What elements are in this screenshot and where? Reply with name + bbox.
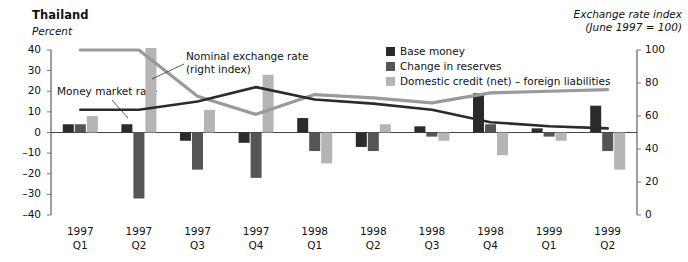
bar-base-money-1998-Q2 bbox=[356, 133, 367, 147]
line-nominal-exchange-rate-right-index bbox=[80, 50, 607, 114]
bar-change-in-reserves-1997-Q3 bbox=[192, 133, 203, 170]
x-axis-tick-label: 1997Q4 bbox=[228, 224, 284, 252]
x-tick-quarter: Q4 bbox=[483, 239, 498, 251]
bar-change-in-reserves-1997-Q1 bbox=[75, 124, 86, 132]
x-axis-tick-label: 1997Q2 bbox=[111, 224, 167, 252]
x-axis-tick-label: 1998Q2 bbox=[345, 224, 401, 252]
bar-domestic-credit-net-foreign-liabilities-1999-Q1 bbox=[556, 133, 567, 141]
left-axis-tick-label: 0 bbox=[11, 126, 41, 138]
x-tick-quarter: Q1 bbox=[542, 239, 557, 251]
left-axis-tick-label: –30 bbox=[11, 187, 41, 199]
x-tick-year: 1997 bbox=[243, 225, 270, 237]
bar-base-money-1997-Q2 bbox=[121, 124, 132, 132]
bar-domestic-credit-net-foreign-liabilities-1999-Q2 bbox=[614, 133, 625, 170]
bar-base-money-1997-Q4 bbox=[239, 133, 250, 143]
x-tick-year: 1998 bbox=[419, 225, 446, 237]
x-axis-tick-label: 1998Q1 bbox=[287, 224, 343, 252]
x-tick-year: 1997 bbox=[184, 225, 211, 237]
x-axis-tick-label: 1997Q3 bbox=[170, 224, 226, 252]
x-axis-tick-label: 1997Q1 bbox=[52, 224, 108, 252]
right-axis-tick-label: 40 bbox=[645, 142, 675, 154]
x-tick-quarter: Q1 bbox=[73, 239, 88, 251]
bar-change-in-reserves-1997-Q4 bbox=[251, 133, 262, 178]
right-axis-tick-label: 100 bbox=[645, 43, 675, 55]
bar-base-money-1998-Q1 bbox=[297, 118, 308, 132]
x-tick-year: 1998 bbox=[360, 225, 387, 237]
x-tick-quarter: Q2 bbox=[600, 239, 615, 251]
bar-base-money-1999-Q1 bbox=[532, 128, 543, 132]
x-tick-year: 1997 bbox=[126, 225, 153, 237]
chart-figure: Thailand Percent Exchange rate index (Ju… bbox=[0, 0, 688, 262]
x-tick-quarter: Q1 bbox=[307, 239, 322, 251]
bar-domestic-credit-net-foreign-liabilities-1998-Q1 bbox=[321, 133, 332, 164]
leader-line-nominal-exchange-rate bbox=[152, 64, 184, 79]
left-axis-tick-label: –10 bbox=[11, 146, 41, 158]
bar-change-in-reserves-1998-Q2 bbox=[368, 133, 379, 152]
bar-domestic-credit-net-foreign-liabilities-1997-Q3 bbox=[204, 110, 215, 133]
x-tick-quarter: Q3 bbox=[190, 239, 205, 251]
left-axis-tick-label: 40 bbox=[11, 43, 41, 55]
x-axis-tick-label: 1999Q2 bbox=[580, 224, 636, 252]
left-axis-tick-label: –20 bbox=[11, 167, 41, 179]
bar-domestic-credit-net-foreign-liabilities-1998-Q3 bbox=[438, 133, 449, 141]
bar-base-money-1998-Q4 bbox=[473, 93, 484, 132]
bar-change-in-reserves-1999-Q2 bbox=[602, 133, 613, 152]
x-axis-tick-label: 1999Q1 bbox=[521, 224, 577, 252]
x-tick-year: 1998 bbox=[477, 225, 504, 237]
x-tick-year: 1997 bbox=[67, 225, 94, 237]
x-tick-year: 1999 bbox=[594, 225, 621, 237]
right-axis-tick-label: 60 bbox=[645, 109, 675, 121]
left-axis-tick-label: 30 bbox=[11, 64, 41, 76]
right-axis-tick-label: 80 bbox=[645, 76, 675, 88]
bar-domestic-credit-net-foreign-liabilities-1998-Q2 bbox=[380, 124, 391, 132]
bar-change-in-reserves-1998-Q3 bbox=[426, 133, 437, 137]
bar-base-money-1997-Q1 bbox=[63, 124, 74, 132]
bar-change-in-reserves-1998-Q1 bbox=[309, 133, 320, 152]
x-tick-year: 1998 bbox=[301, 225, 328, 237]
right-axis-tick-label: 20 bbox=[645, 175, 675, 187]
x-tick-quarter: Q2 bbox=[131, 239, 146, 251]
x-tick-quarter: Q4 bbox=[249, 239, 264, 251]
bar-domestic-credit-net-foreign-liabilities-1997-Q1 bbox=[87, 116, 98, 133]
plot-area bbox=[0, 0, 688, 262]
bar-domestic-credit-net-foreign-liabilities-1997-Q4 bbox=[263, 75, 274, 133]
x-axis-tick-label: 1998Q4 bbox=[463, 224, 519, 252]
x-tick-year: 1999 bbox=[536, 225, 563, 237]
bar-base-money-1997-Q3 bbox=[180, 133, 191, 141]
left-axis-tick-label: 20 bbox=[11, 84, 41, 96]
bar-domestic-credit-net-foreign-liabilities-1998-Q4 bbox=[497, 133, 508, 156]
x-tick-quarter: Q3 bbox=[424, 239, 439, 251]
left-axis-tick-label: –40 bbox=[11, 208, 41, 220]
bar-base-money-1998-Q3 bbox=[414, 126, 425, 132]
bar-change-in-reserves-1999-Q1 bbox=[544, 133, 555, 137]
x-tick-quarter: Q2 bbox=[366, 239, 381, 251]
right-axis-tick-label: 0 bbox=[645, 208, 675, 220]
bar-change-in-reserves-1998-Q4 bbox=[485, 124, 496, 132]
x-axis-tick-label: 1998Q3 bbox=[404, 224, 460, 252]
left-axis-tick-label: 10 bbox=[11, 105, 41, 117]
bar-change-in-reserves-1997-Q2 bbox=[133, 133, 144, 199]
